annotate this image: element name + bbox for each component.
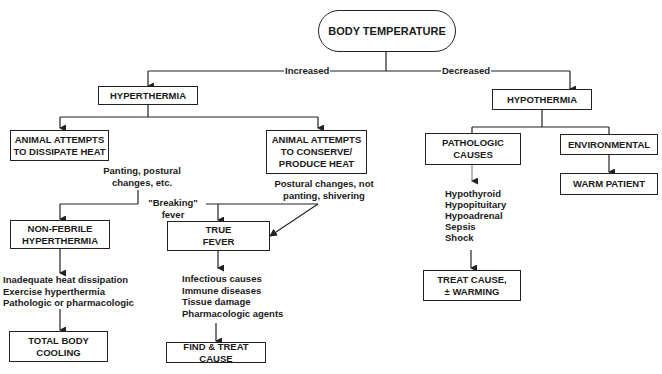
node-environmental: ENVIRONMENTAL: [560, 134, 658, 155]
node-label: ANIMAL ATTEMPTS TO CONSERVE/ PRODUCE HEA…: [272, 134, 362, 170]
node-label: ANIMAL ATTEMPTS TO DISSIPATE HEAT: [13, 134, 105, 158]
node-hyperthermia: HYPERTHERMIA: [98, 86, 198, 105]
node-label: BODY TEMPERATURE: [328, 25, 446, 37]
edge-label-breaking-fever: "Breaking" fever: [140, 197, 206, 221]
node-label: ENVIRONMENTAL: [568, 139, 650, 151]
node-label: TREAT CAUSE, ± WARMING: [437, 274, 507, 298]
node-label: PATHOLOGIC CAUSES: [442, 137, 504, 161]
node-label: WARM PATIENT: [573, 178, 645, 190]
node-find-treat-cause: FIND & TREAT CAUSE: [166, 342, 266, 363]
node-warm-patient: WARM PATIENT: [560, 173, 658, 195]
node-conserve-heat: ANIMAL ATTEMPTS TO CONSERVE/ PRODUCE HEA…: [266, 130, 367, 174]
node-true-fever: TRUE FEVER: [167, 221, 270, 251]
list-non-febrile-causes: Inadequate heat dissipation Exercise hyp…: [3, 274, 143, 309]
node-hypothermia: HYPOTHERMIA: [492, 89, 592, 110]
note-conserve: Postural changes, not panting, shivering: [264, 178, 384, 202]
note-dissipate: Panting, postural changes, etc.: [92, 165, 192, 189]
node-label: NON-FEBRILE HYPERTHERMIA: [22, 223, 98, 247]
node-body-temperature: BODY TEMPERATURE: [318, 10, 456, 52]
node-label: TRUE FEVER: [203, 224, 235, 248]
list-fever-causes: Infectious causes Immune diseases Tissue…: [182, 273, 302, 319]
edge-label-decreased: Decreased: [441, 65, 491, 76]
node-label: FIND & TREAT CAUSE: [167, 341, 265, 365]
edge-label-increased: Increased: [284, 65, 330, 76]
node-pathologic-causes: PATHOLOGIC CAUSES: [425, 133, 521, 165]
node-non-febrile-hyperthermia: NON-FEBRILE HYPERTHERMIA: [10, 220, 110, 249]
node-label: HYPERTHERMIA: [110, 90, 186, 102]
node-label: TOTAL BODY COOLING: [28, 335, 89, 359]
node-treat-cause-warming: TREAT CAUSE, ± WARMING: [423, 270, 521, 301]
node-label: HYPOTHERMIA: [507, 94, 577, 106]
node-total-body-cooling: TOTAL BODY COOLING: [9, 331, 108, 362]
list-hypothermia-causes: Hypothyroid Hypopituitary Hypoadrenal Se…: [445, 188, 545, 243]
node-dissipate-heat: ANIMAL ATTEMPTS TO DISSIPATE HEAT: [10, 130, 109, 161]
